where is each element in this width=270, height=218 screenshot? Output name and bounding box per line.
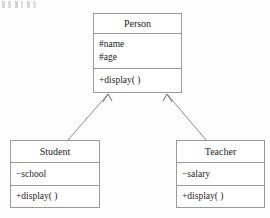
person-attribute-name: #name: [94, 38, 181, 51]
student-methods-compartment: +display( ): [11, 185, 99, 207]
open-arrowhead-student-icon: [103, 94, 112, 102]
class-box-student[interactable]: Student −school +display( ): [10, 140, 100, 208]
generalization-line-teacher-to-person: [167, 94, 206, 140]
open-arrowhead-teacher-icon: [163, 94, 172, 102]
person-attribute-age: #age: [94, 51, 181, 64]
class-box-person[interactable]: Person #name #age +display( ): [93, 13, 182, 93]
person-method-display: +display( ): [94, 74, 181, 87]
uml-diagram-canvas: Person #name #age +display( ) Student −s…: [0, 0, 270, 218]
student-method-display: +display( ): [11, 190, 99, 203]
person-methods-compartment: +display( ): [94, 68, 181, 92]
person-name-compartment: Person: [94, 14, 181, 33]
person-attributes-compartment: #name #age: [94, 33, 181, 68]
student-class-name: Student: [11, 146, 99, 158]
teacher-attributes-compartment: −salary: [177, 162, 264, 184]
class-box-teacher[interactable]: Teacher −salary +display( ): [176, 140, 265, 208]
generalization-line-student-to-person: [68, 94, 108, 140]
student-attribute-school: −school: [11, 168, 99, 181]
person-class-name: Person: [94, 18, 181, 30]
teacher-attribute-salary: −salary: [177, 168, 264, 181]
teacher-class-name: Teacher: [177, 146, 264, 158]
student-name-compartment: Student: [11, 141, 99, 162]
scan-artifact: [2, 1, 38, 8]
teacher-methods-compartment: +display( ): [177, 185, 264, 207]
teacher-method-display: +display( ): [177, 190, 264, 203]
teacher-name-compartment: Teacher: [177, 141, 264, 162]
student-attributes-compartment: −school: [11, 162, 99, 184]
